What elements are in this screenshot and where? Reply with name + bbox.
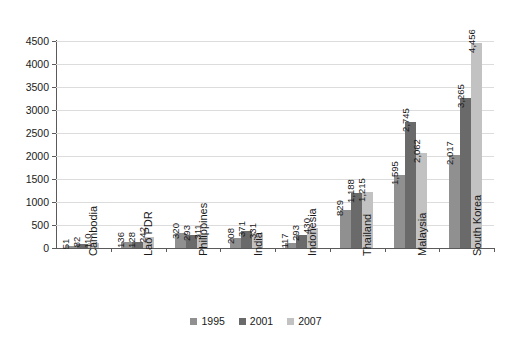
x-axis-category-label: Indonesia (306, 208, 318, 256)
bar-value-label: 1,215 (356, 178, 367, 202)
legend-item[interactable]: 2001 (239, 316, 273, 327)
y-axis-tick-label: 3000 (26, 105, 49, 116)
x-axis-tick (330, 248, 331, 252)
legend-item[interactable]: 2007 (287, 316, 321, 327)
bar-value-label: 2,745 (400, 108, 411, 132)
x-axis-tick (385, 248, 386, 252)
y-axis-tick-label: 4000 (26, 59, 49, 70)
bar-value-label: 4,456 (466, 29, 477, 53)
x-axis-category-label: Thailand (361, 214, 373, 256)
legend-swatch (287, 318, 294, 325)
y-axis-tick (52, 202, 56, 203)
y-axis-tick (52, 110, 56, 111)
bar-value-label: 293 (290, 225, 301, 241)
x-axis-tick (275, 248, 276, 252)
bar-value-label: 136 (115, 232, 126, 248)
y-axis-tick-label: 2500 (26, 128, 49, 139)
legend-label: 1995 (201, 316, 224, 327)
legend-swatch (190, 318, 197, 325)
y-axis-tick (52, 133, 56, 134)
bar[interactable]: 117 (285, 243, 296, 248)
y-axis-tick-label: 1000 (26, 197, 49, 208)
y-axis-tick-label: 500 (31, 220, 49, 231)
x-axis-tick (111, 248, 112, 252)
y-axis-tick-label: 3500 (26, 82, 49, 93)
chart-legend: 199520012007 (0, 316, 512, 327)
x-axis-category-label: South Korea (471, 195, 483, 256)
y-axis-tick (52, 156, 56, 157)
bar-value-label: 371 (236, 221, 247, 237)
y-axis-tick (52, 64, 56, 65)
bar-value-label: 320 (170, 223, 181, 239)
y-axis-tick-label: 4500 (26, 36, 49, 47)
y-axis-tick-label: 2000 (26, 151, 49, 162)
x-axis-category-label: India (252, 232, 264, 256)
plot-area: 0500100015002000250030003500400045005182… (56, 41, 494, 248)
bar[interactable]: 2,017 (449, 155, 460, 248)
bar[interactable]: 3,265 (460, 98, 471, 248)
x-axis-category-label: Philippines (197, 203, 209, 256)
bar-value-label: 82 (71, 237, 82, 248)
bar-value-label: 128 (126, 232, 137, 248)
x-axis-tick (494, 248, 495, 252)
x-axis-category-label: Cambodia (87, 206, 99, 256)
legend-swatch (239, 318, 246, 325)
y-axis-tick (52, 87, 56, 88)
bar-group: 208371331 (230, 41, 263, 248)
x-axis-tick (220, 248, 221, 252)
bar[interactable]: 208 (230, 238, 241, 248)
y-axis-tick (52, 41, 56, 42)
y-axis-tick-label: 0 (43, 243, 49, 254)
bar-value-label: 117 (279, 233, 290, 248)
legend-label: 2001 (250, 316, 273, 327)
bar-value-label: 1,595 (389, 161, 400, 185)
x-axis-tick (439, 248, 440, 252)
bar-value-label: 3,265 (455, 84, 466, 108)
bar-value-label: 51 (60, 238, 71, 249)
x-axis-tick (166, 248, 167, 252)
bar-value-label: 293 (181, 225, 192, 241)
bar[interactable]: 128 (132, 242, 143, 248)
y-axis-tick-label: 1500 (26, 174, 49, 185)
bar-value-label: 2,062 (411, 139, 422, 163)
y-axis-tick (52, 179, 56, 180)
bar-value-label: 829 (334, 200, 345, 216)
x-axis-category-label: Malaysia (416, 213, 428, 256)
y-axis-tick (52, 248, 56, 249)
bar-value-label: 1,188 (345, 179, 356, 203)
legend-item[interactable]: 1995 (190, 316, 224, 327)
bar-value-label: 2,017 (444, 141, 455, 165)
bar-chart: 0500100015002000250030003500400045005182… (0, 0, 512, 342)
legend-label: 2007 (298, 316, 321, 327)
bar[interactable]: 829 (340, 210, 351, 248)
x-axis-category-label: Lao PDR (142, 211, 154, 256)
y-axis-tick (52, 225, 56, 226)
bar-value-label: 208 (225, 229, 236, 245)
bar[interactable]: 1,595 (394, 175, 405, 248)
